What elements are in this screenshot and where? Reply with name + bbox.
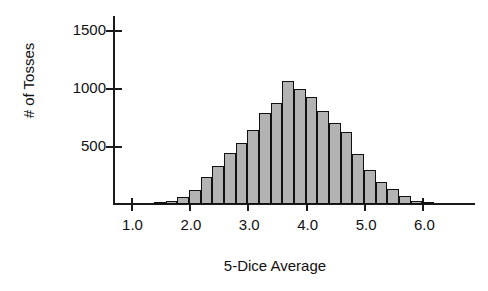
y-axis-title: # of Tosses bbox=[20, 11, 37, 151]
histogram-bar bbox=[399, 196, 411, 204]
histogram-figure: # of Tosses 5-Dice Average 50010001500 1… bbox=[0, 0, 488, 291]
histogram-bar bbox=[154, 202, 166, 204]
histogram-bar bbox=[259, 113, 271, 204]
histogram-bar bbox=[422, 202, 434, 204]
x-tick-label: 1.0 bbox=[103, 216, 163, 233]
histogram-bar bbox=[189, 190, 201, 204]
histogram-bar bbox=[166, 201, 178, 204]
y-tick-label: 1500 bbox=[36, 21, 106, 38]
histogram-bar bbox=[364, 170, 376, 204]
histogram-bar bbox=[282, 81, 294, 204]
histogram-bar bbox=[411, 201, 423, 204]
x-tick-label: 6.0 bbox=[394, 216, 454, 233]
histogram-bar bbox=[294, 89, 306, 204]
histogram-bar bbox=[341, 132, 353, 204]
histogram-bar bbox=[329, 123, 341, 204]
histogram-bar bbox=[201, 177, 213, 204]
x-tick-label: 4.0 bbox=[278, 216, 338, 233]
histogram-bar bbox=[352, 154, 364, 204]
histogram-bar bbox=[212, 166, 224, 204]
x-axis-title: 5-Dice Average bbox=[130, 257, 420, 274]
histogram-bar bbox=[224, 153, 236, 204]
histogram-bar bbox=[317, 111, 329, 204]
histogram-bars bbox=[113, 16, 475, 204]
histogram-bar bbox=[376, 182, 388, 204]
x-tick-label: 3.0 bbox=[219, 216, 279, 233]
y-tick-label: 500 bbox=[36, 137, 106, 154]
y-tick-label: 1000 bbox=[36, 79, 106, 96]
histogram-bar bbox=[177, 197, 189, 204]
histogram-bar bbox=[306, 97, 318, 204]
x-tick-label: 2.0 bbox=[161, 216, 221, 233]
histogram-bar bbox=[247, 130, 259, 204]
histogram-bar bbox=[236, 143, 248, 205]
histogram-bar bbox=[271, 103, 283, 204]
x-tick-label: 5.0 bbox=[336, 216, 396, 233]
histogram-bar bbox=[387, 189, 399, 204]
